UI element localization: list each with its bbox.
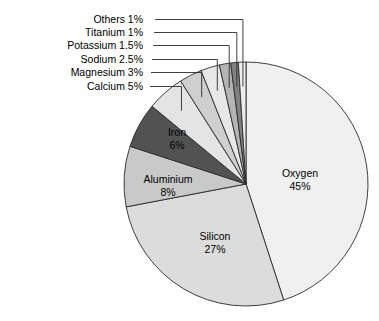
callout-labels-group: Others 1%Titanium 1%Potassium 1.5%Sodium… [67,13,143,92]
callout-label-calcium: Calcium 5% [87,80,143,92]
callout-label-others: Others 1% [93,13,143,25]
callout-label-titanium: Titanium 1% [85,26,143,38]
pie-chart-figure: Oxygen45%Silicon27%Aluminium8%Iron6% Oth… [0,0,379,321]
callout-label-magnesium: Magnesium 3% [71,66,143,78]
callout-label-sodium: Sodium 2.5% [81,53,143,65]
pie-chart-canvas: Oxygen45%Silicon27%Aluminium8%Iron6% Oth… [0,0,379,321]
callout-label-potassium: Potassium 1.5% [67,39,143,51]
slice-label-iron: Iron6% [168,126,186,151]
